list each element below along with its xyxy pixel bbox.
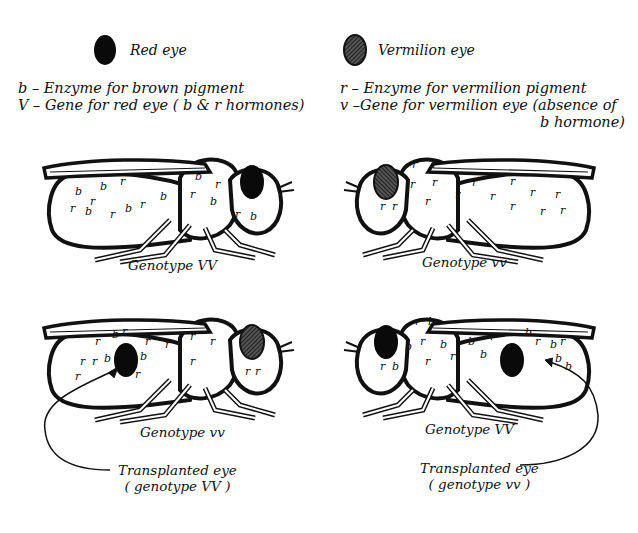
svg-text:r: r xyxy=(540,205,546,218)
svg-text:r: r xyxy=(535,335,541,348)
definition-V: V – Gene for red eye ( b & r hormones) xyxy=(18,97,304,114)
caption-bottom-left: Genotype vv xyxy=(140,424,225,440)
transplant-label-right: Transplanted eye ( genotype vv ) xyxy=(420,460,539,492)
definitions-left: b – Enzyme for brown pigment V – Gene fo… xyxy=(18,80,304,114)
svg-text:r: r xyxy=(245,365,251,378)
svg-text:r: r xyxy=(420,335,426,348)
svg-text:b: b xyxy=(104,352,111,365)
svg-text:r: r xyxy=(510,200,516,213)
svg-text:r: r xyxy=(145,335,151,348)
svg-text:r: r xyxy=(165,338,171,351)
svg-text:r: r xyxy=(555,188,561,201)
svg-text:b: b xyxy=(550,338,557,351)
definition-v: v –Gene for vermilion eye (absence of xyxy=(340,97,625,114)
svg-text:b: b xyxy=(480,348,487,361)
svg-text:r: r xyxy=(135,368,141,381)
svg-text:r: r xyxy=(410,178,416,191)
definition-v-cont: b hormone) xyxy=(340,114,625,131)
svg-text:r: r xyxy=(122,325,128,338)
svg-text:r: r xyxy=(432,158,438,171)
svg-text:r: r xyxy=(412,158,418,171)
svg-text:r: r xyxy=(380,360,386,373)
fly-bottom-left: rb rr rb rr rb rr rr rr xyxy=(44,320,294,422)
svg-text:b: b xyxy=(405,340,412,353)
svg-text:r: r xyxy=(415,315,421,328)
red-eye-legend-label: Red eye xyxy=(130,42,187,58)
svg-text:b: b xyxy=(468,335,475,348)
svg-text:b: b xyxy=(392,360,399,373)
svg-text:r: r xyxy=(120,175,126,188)
svg-text:b: b xyxy=(100,180,107,193)
svg-text:r: r xyxy=(560,335,566,348)
svg-text:b: b xyxy=(160,190,167,203)
svg-text:r: r xyxy=(450,350,456,363)
svg-text:r: r xyxy=(560,204,566,217)
caption-top-right: Genotype vv xyxy=(422,254,507,270)
svg-text:r: r xyxy=(190,188,196,201)
svg-text:r: r xyxy=(210,335,216,348)
svg-text:r: r xyxy=(380,200,386,213)
svg-text:r: r xyxy=(425,355,431,368)
svg-text:r: r xyxy=(70,202,76,215)
svg-text:r: r xyxy=(432,176,438,189)
red-eye-icon xyxy=(240,165,264,199)
svg-text:r: r xyxy=(510,175,516,188)
svg-text:b: b xyxy=(555,352,562,365)
svg-text:b: b xyxy=(195,170,202,183)
svg-text:r: r xyxy=(140,198,146,211)
svg-text:b: b xyxy=(75,185,82,198)
caption-bottom-right: Genotype VV xyxy=(425,421,514,437)
svg-text:r: r xyxy=(392,200,398,213)
definition-b: b – Enzyme for brown pigment xyxy=(18,80,304,97)
svg-text:b: b xyxy=(125,202,132,215)
svg-text:r: r xyxy=(255,365,261,378)
svg-text:r: r xyxy=(490,330,496,343)
fly-top-left: bb rr rb rb rb br rb rb xyxy=(44,160,294,262)
red-eye-legend-icon xyxy=(94,35,116,65)
svg-text:b: b xyxy=(210,195,217,208)
svg-text:r: r xyxy=(235,208,241,221)
svg-text:b: b xyxy=(250,210,257,223)
svg-text:r: r xyxy=(95,335,101,348)
svg-text:r: r xyxy=(190,355,196,368)
transplant-label-left: Transplanted eye ( genotype VV ) xyxy=(118,462,237,494)
svg-text:b: b xyxy=(140,350,147,363)
svg-text:r: r xyxy=(80,355,86,368)
caption-top-left: Genotype VV xyxy=(128,257,217,273)
definition-r: r – Enzyme for vermilion pigment xyxy=(340,80,625,97)
svg-text:r: r xyxy=(472,176,478,189)
svg-text:r: r xyxy=(110,208,116,221)
svg-text:b: b xyxy=(428,315,435,328)
svg-text:b: b xyxy=(112,328,119,341)
svg-text:b: b xyxy=(440,338,447,351)
svg-text:r: r xyxy=(455,188,461,201)
svg-text:r: r xyxy=(490,190,496,203)
svg-text:b: b xyxy=(85,205,92,218)
svg-text:r: r xyxy=(92,355,98,368)
svg-text:r: r xyxy=(530,186,536,199)
svg-text:b: b xyxy=(525,326,532,339)
vermilion-eye-legend-label: Vermilion eye xyxy=(378,42,475,58)
svg-text:r: r xyxy=(75,370,81,383)
vermilion-eye-legend-icon xyxy=(344,35,366,65)
svg-text:r: r xyxy=(425,195,431,208)
svg-text:r: r xyxy=(190,330,196,343)
definitions-right: r – Enzyme for vermilion pigment v –Gene… xyxy=(340,80,625,131)
svg-text:r: r xyxy=(215,178,221,191)
